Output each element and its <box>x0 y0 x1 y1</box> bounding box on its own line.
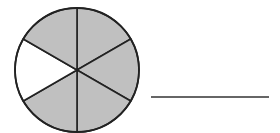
fraction-diagram <box>0 0 280 133</box>
fraction-circle <box>15 8 139 132</box>
